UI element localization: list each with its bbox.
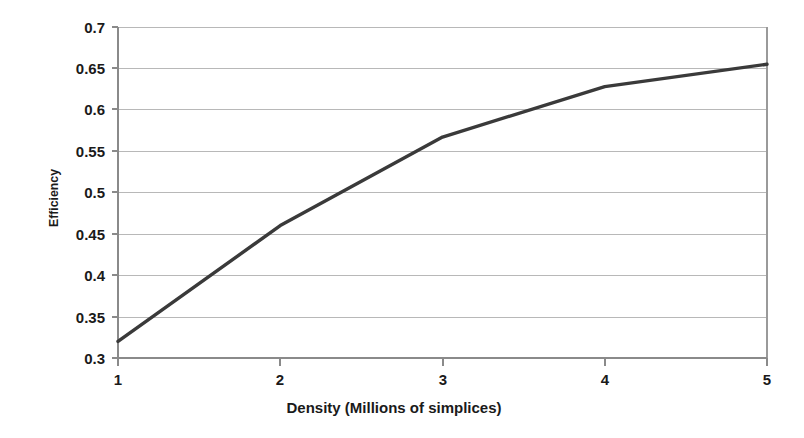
x-tick-label-5: 5 [763,371,771,388]
x-tick-label-1: 1 [114,371,122,388]
x-tick-label-2: 2 [276,371,284,388]
y-tick-label-0.65: 0.65 [76,60,105,77]
efficiency-vs-density-line-chart: 0.7 0.65 0.6 0.55 0.5 0.45 0.4 0.35 0.3 … [0,0,804,438]
y-tick-label-0.55: 0.55 [76,143,105,160]
y-tick-label-0.45: 0.45 [76,226,105,243]
x-tick-label-3: 3 [439,371,447,388]
y-tick-label-0.6: 0.6 [84,101,105,118]
y-tick-label-0.5: 0.5 [84,184,105,201]
x-axis-title: Density (Millions of simplices) [286,399,501,416]
y-tick-label-0.35: 0.35 [76,309,105,326]
x-tick-label-4: 4 [601,371,610,388]
chart-container: 0.7 0.65 0.6 0.55 0.5 0.45 0.4 0.35 0.3 … [0,0,804,438]
y-tick-label-0.3: 0.3 [84,350,105,367]
y-tick-label-0.4: 0.4 [84,267,106,284]
y-tick-label-0.7: 0.7 [84,19,105,36]
y-axis-title: Efficiency [46,168,61,227]
